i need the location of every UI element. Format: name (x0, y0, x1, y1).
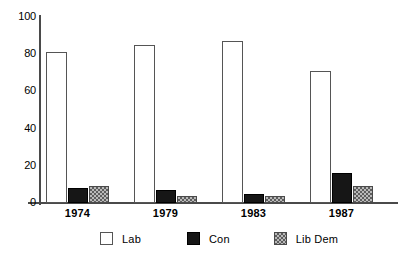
bar-lab (222, 41, 243, 203)
bar-lib-dem (89, 186, 109, 203)
bar-con (332, 173, 352, 203)
legend-label-lab: Lab (122, 233, 141, 245)
y-axis-tick-label: 40 (10, 123, 36, 134)
legend-item-lib-dem: Lib Dem (274, 232, 338, 245)
solid-black-swatch-icon (187, 232, 200, 245)
x-axis-tick-label: 1983 (214, 207, 293, 219)
bar-lab (46, 52, 67, 203)
y-axis-tick-label: 80 (10, 48, 36, 59)
legend-item-lab: Lab (100, 232, 141, 245)
y-axis-tick-label: 20 (10, 160, 36, 171)
bar-con (244, 194, 264, 203)
bar-group (222, 17, 285, 203)
bar-lab (134, 45, 155, 203)
bar-group (310, 17, 373, 203)
white-outline-swatch-icon (100, 232, 113, 245)
bar-group (46, 17, 109, 203)
gray-checkered-swatch-icon (274, 232, 287, 245)
bar-con (68, 188, 88, 203)
bar-lab (310, 71, 331, 203)
bar-group (134, 17, 197, 203)
bar-lib-dem (177, 196, 197, 203)
chart-legend: Lab Con Lib Dem (100, 232, 338, 245)
x-axis-tick-label: 1979 (126, 207, 205, 219)
bar-lib-dem (353, 186, 373, 203)
bar-lib-dem (265, 196, 285, 203)
legend-label-con: Con (209, 233, 230, 245)
y-axis-tick-labels: 020406080100 (8, 0, 36, 258)
y-axis-line (39, 15, 41, 205)
legend-item-con: Con (187, 232, 230, 245)
bar-chart: 020406080100 1974197919831987 Lab Con Li… (0, 0, 404, 258)
y-axis-tick-label: 60 (10, 85, 36, 96)
y-axis-tick-label: 100 (10, 11, 36, 22)
x-axis-tick-label: 1987 (302, 207, 381, 219)
bar-con (156, 190, 176, 203)
legend-label-lib-dem: Lib Dem (296, 233, 338, 245)
x-axis-tick-label: 1974 (38, 207, 117, 219)
y-axis-tick-label: 0 (10, 197, 36, 208)
